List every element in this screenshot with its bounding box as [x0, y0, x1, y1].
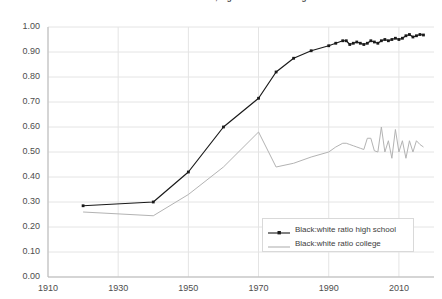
data-point-marker	[345, 39, 348, 42]
y-tick-label: 0.10	[0, 247, 40, 256]
data-point-marker	[390, 38, 393, 41]
chart-legend: Black:white ratio high school Black:whit…	[262, 218, 414, 252]
legend-swatch-college	[268, 238, 290, 248]
x-tick-label: 1990	[307, 284, 351, 293]
data-point-marker	[366, 42, 369, 45]
chart-container: Black:white ratios in educational attain…	[0, 0, 442, 299]
data-point-marker	[415, 34, 418, 37]
y-tick-label: 0.80	[0, 72, 40, 81]
data-point-marker	[359, 42, 362, 45]
data-point-marker	[341, 39, 344, 42]
data-series-layer	[82, 33, 425, 216]
data-point-marker	[292, 57, 295, 60]
y-tick-label: 0.00	[0, 272, 40, 281]
data-point-marker	[82, 204, 85, 207]
data-point-marker	[383, 38, 386, 41]
x-tick-label: 1970	[237, 284, 281, 293]
series-line-0	[83, 35, 423, 206]
data-point-marker	[327, 44, 330, 47]
data-point-marker	[394, 37, 397, 40]
data-point-marker	[369, 39, 372, 42]
data-point-marker	[310, 49, 313, 52]
y-tick-label: 0.90	[0, 47, 40, 56]
data-point-marker	[275, 71, 278, 74]
data-point-marker	[405, 34, 408, 37]
plot-area	[0, 0, 442, 299]
data-point-marker	[373, 41, 376, 44]
x-tick-label: 1950	[166, 284, 210, 293]
data-point-marker	[187, 171, 190, 174]
data-point-marker	[380, 39, 383, 42]
data-point-marker	[257, 97, 260, 100]
x-tick-label: 1910	[26, 284, 70, 293]
legend-swatch-high-school	[268, 224, 290, 234]
y-tick-label: 0.30	[0, 197, 40, 206]
data-point-marker	[222, 126, 225, 129]
legend-label-college: Black:white ratio college	[295, 239, 381, 248]
x-tick-label: 2010	[377, 284, 421, 293]
data-point-marker	[398, 38, 401, 41]
legend-item-high-school: Black:white ratio high school	[268, 223, 396, 235]
data-point-marker	[401, 37, 404, 40]
legend-item-college: Black:white ratio college	[268, 237, 381, 249]
legend-label-high-school: Black:white ratio high school	[295, 225, 396, 234]
data-point-marker	[152, 201, 155, 204]
data-point-marker	[419, 33, 422, 36]
data-point-marker	[334, 42, 337, 45]
y-tick-label: 0.20	[0, 222, 40, 231]
y-tick-label: 0.60	[0, 122, 40, 131]
data-point-marker	[412, 36, 415, 39]
data-point-marker	[352, 42, 355, 45]
data-point-marker	[376, 42, 379, 45]
y-tick-label: 0.40	[0, 172, 40, 181]
data-point-marker	[348, 43, 351, 46]
y-tick-label: 0.50	[0, 147, 40, 156]
y-tick-label: 1.00	[0, 22, 40, 31]
x-tick-label: 1930	[96, 284, 140, 293]
data-point-marker	[408, 33, 411, 36]
data-point-marker	[387, 39, 390, 42]
data-point-marker	[355, 41, 358, 44]
data-point-marker	[422, 34, 425, 37]
data-point-marker	[362, 43, 365, 46]
y-tick-label: 0.70	[0, 97, 40, 106]
